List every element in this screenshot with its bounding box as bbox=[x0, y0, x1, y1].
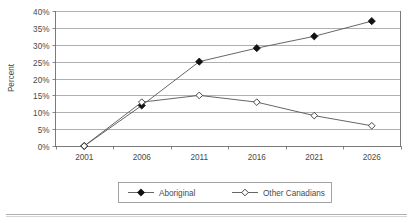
data-point-marker bbox=[311, 33, 318, 40]
data-point-marker bbox=[311, 112, 318, 119]
y-tick-label: 20% bbox=[33, 76, 49, 85]
legend-label: Aboriginal bbox=[159, 189, 196, 198]
data-point-marker bbox=[368, 18, 375, 25]
chart-legend: AboriginalOther Canadians bbox=[119, 183, 332, 203]
y-tick-label: 25% bbox=[33, 59, 49, 68]
x-tick-label: 2006 bbox=[133, 153, 152, 162]
y-tick-label: 40% bbox=[33, 8, 49, 17]
y-tick-label: 30% bbox=[33, 42, 49, 51]
data-point-marker bbox=[196, 92, 203, 99]
x-tick-label: 2026 bbox=[363, 153, 382, 162]
x-tick-label: 2001 bbox=[75, 153, 94, 162]
x-tick-label: 2011 bbox=[190, 153, 208, 162]
x-tick-label: 2021 bbox=[305, 153, 324, 162]
data-point-marker bbox=[253, 99, 260, 106]
x-tick-labels: 200120062011201620212026 bbox=[75, 153, 381, 162]
chart-figure: Percent 0%5%10%15%20%25%30%35%40% 200120… bbox=[0, 0, 413, 223]
y-tick-label: 35% bbox=[33, 25, 49, 34]
y-axis-label: Percent bbox=[7, 63, 16, 92]
series-other-canadians bbox=[81, 92, 375, 149]
gridlines bbox=[56, 12, 401, 130]
y-tick-label: 15% bbox=[33, 92, 49, 101]
series-line bbox=[84, 21, 372, 146]
data-point-marker bbox=[196, 58, 203, 65]
data-point-marker bbox=[368, 122, 375, 129]
series-line bbox=[84, 95, 372, 146]
y-tick-label: 5% bbox=[38, 126, 50, 135]
legend-label: Other Canadians bbox=[263, 189, 325, 198]
x-tick-label: 2016 bbox=[248, 153, 267, 162]
line-chart: Percent 0%5%10%15%20%25%30%35%40% 200120… bbox=[0, 0, 413, 223]
y-tick-labels: 0%5%10%15%20%25%30%35%40% bbox=[33, 8, 49, 152]
y-tick-label: 10% bbox=[33, 109, 49, 118]
y-tick-label: 0% bbox=[38, 143, 50, 152]
